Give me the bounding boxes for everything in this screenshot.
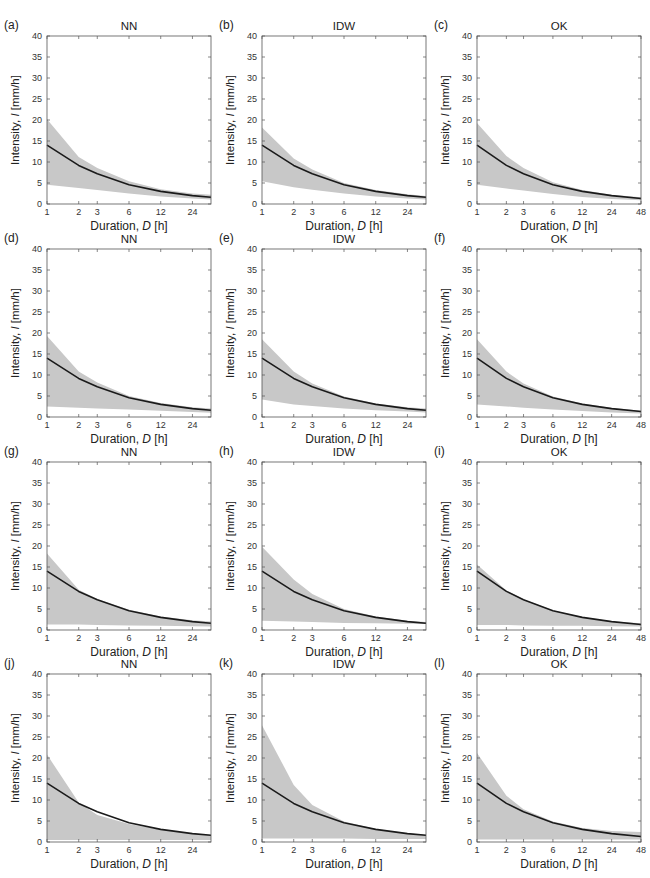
x-tick-label: 1 bbox=[259, 420, 264, 430]
y-tick-label: 20 bbox=[247, 753, 257, 763]
x-tick-label: 2 bbox=[504, 845, 509, 855]
panel-title: OK bbox=[551, 446, 568, 458]
x-tick-label: 24 bbox=[607, 420, 617, 430]
x-tick-label: 12 bbox=[156, 420, 166, 430]
x-tick-label: 1 bbox=[44, 420, 49, 430]
y-tick-label: 10 bbox=[247, 795, 257, 805]
x-tick-label: 2 bbox=[76, 845, 81, 855]
x-tick-label: 2 bbox=[504, 633, 509, 643]
y-tick-label: 15 bbox=[32, 562, 42, 572]
x-tick-label: 1 bbox=[259, 633, 264, 643]
y-tick-label: 30 bbox=[247, 499, 257, 509]
y-tick-label: 40 bbox=[247, 457, 257, 467]
y-tick-label: 20 bbox=[462, 115, 472, 125]
chart-panel-k: 051015202530354012361224IDW(k)Duration, … bbox=[219, 656, 426, 871]
y-axis-label: Intensity, I [mm/h] bbox=[9, 288, 21, 378]
x-tick-label: 3 bbox=[310, 420, 315, 430]
x-tick-label: 12 bbox=[371, 633, 381, 643]
x-tick-label: 3 bbox=[95, 420, 100, 430]
y-tick-label: 40 bbox=[247, 669, 257, 679]
chart-panel-d: 051015202530354012361224NN(d)Duration, D… bbox=[4, 231, 211, 446]
y-tick-label: 0 bbox=[252, 199, 257, 209]
panel-label: (j) bbox=[4, 656, 15, 670]
y-tick-label: 5 bbox=[467, 178, 472, 188]
x-tick-label: 24 bbox=[402, 633, 412, 643]
x-axis-label: Duration, D [h] bbox=[305, 857, 382, 871]
x-tick-label: 12 bbox=[577, 845, 587, 855]
y-axis-label: Intensity, I [mm/h] bbox=[9, 75, 21, 165]
y-tick-label: 0 bbox=[467, 837, 472, 847]
y-tick-label: 5 bbox=[467, 604, 472, 614]
y-tick-label: 15 bbox=[462, 562, 472, 572]
x-tick-label: 1 bbox=[44, 633, 49, 643]
y-tick-label: 20 bbox=[32, 753, 42, 763]
chart-panel-c: 05101520253035401236122448OK(c)Duration,… bbox=[434, 18, 646, 233]
x-tick-label: 6 bbox=[550, 420, 555, 430]
panel-title: NN bbox=[121, 20, 138, 32]
y-tick-label: 30 bbox=[247, 286, 257, 296]
y-tick-label: 30 bbox=[32, 711, 42, 721]
y-tick-label: 0 bbox=[37, 837, 42, 847]
x-tick-label: 1 bbox=[474, 207, 479, 217]
y-tick-label: 20 bbox=[32, 115, 42, 125]
panel-title: NN bbox=[121, 446, 138, 458]
y-tick-label: 10 bbox=[247, 370, 257, 380]
x-tick-label: 1 bbox=[474, 420, 479, 430]
y-tick-label: 15 bbox=[247, 774, 257, 784]
x-tick-label: 3 bbox=[95, 207, 100, 217]
x-tick-label: 12 bbox=[156, 207, 166, 217]
x-tick-label: 48 bbox=[636, 845, 646, 855]
x-tick-label: 6 bbox=[341, 633, 346, 643]
y-tick-label: 25 bbox=[462, 307, 472, 317]
panel-label: (i) bbox=[434, 444, 445, 458]
x-axis-label: Duration, D [h] bbox=[305, 432, 382, 446]
x-tick-label: 2 bbox=[76, 633, 81, 643]
panel-title: IDW bbox=[333, 446, 356, 458]
y-tick-label: 35 bbox=[247, 265, 257, 275]
x-axis-label: Duration, D [h] bbox=[90, 432, 167, 446]
y-tick-label: 0 bbox=[467, 625, 472, 635]
x-tick-label: 1 bbox=[259, 845, 264, 855]
panel-label: (h) bbox=[219, 444, 234, 458]
x-tick-label: 1 bbox=[474, 633, 479, 643]
y-tick-label: 30 bbox=[32, 499, 42, 509]
panel-label: (e) bbox=[219, 231, 234, 245]
y-tick-label: 35 bbox=[462, 690, 472, 700]
x-tick-label: 6 bbox=[550, 845, 555, 855]
panel-title: OK bbox=[551, 233, 568, 245]
y-tick-label: 25 bbox=[462, 520, 472, 530]
y-tick-label: 40 bbox=[462, 31, 472, 41]
y-tick-label: 5 bbox=[252, 604, 257, 614]
y-tick-label: 10 bbox=[247, 157, 257, 167]
y-tick-label: 0 bbox=[252, 412, 257, 422]
y-tick-label: 0 bbox=[467, 199, 472, 209]
x-axis-label: Duration, D [h] bbox=[305, 219, 382, 233]
x-axis-label: Duration, D [h] bbox=[520, 432, 597, 446]
y-tick-label: 25 bbox=[462, 732, 472, 742]
x-axis-label: Duration, D [h] bbox=[520, 645, 597, 659]
y-axis-label: Intensity, I [mm/h] bbox=[439, 75, 451, 165]
x-tick-label: 48 bbox=[636, 207, 646, 217]
panel-label: (c) bbox=[434, 18, 448, 32]
y-tick-label: 15 bbox=[462, 349, 472, 359]
panel-label: (a) bbox=[4, 18, 19, 32]
y-axis-label: Intensity, I [mm/h] bbox=[439, 501, 451, 591]
chart-panel-h: 051015202530354012361224IDW(h)Duration, … bbox=[219, 444, 426, 659]
y-tick-label: 0 bbox=[37, 625, 42, 635]
y-tick-label: 10 bbox=[32, 157, 42, 167]
y-tick-label: 40 bbox=[247, 31, 257, 41]
x-tick-label: 12 bbox=[156, 633, 166, 643]
x-tick-label: 24 bbox=[402, 207, 412, 217]
x-tick-label: 3 bbox=[95, 633, 100, 643]
x-tick-label: 12 bbox=[577, 207, 587, 217]
y-tick-label: 40 bbox=[32, 669, 42, 679]
panel-label: (d) bbox=[4, 231, 19, 245]
y-axis-label: Intensity, I [mm/h] bbox=[224, 75, 236, 165]
panel-label: (l) bbox=[434, 656, 445, 670]
y-tick-label: 40 bbox=[462, 457, 472, 467]
y-tick-label: 0 bbox=[37, 412, 42, 422]
y-tick-label: 20 bbox=[462, 753, 472, 763]
panel-title: NN bbox=[121, 658, 138, 670]
y-tick-label: 20 bbox=[462, 541, 472, 551]
y-tick-label: 10 bbox=[32, 370, 42, 380]
